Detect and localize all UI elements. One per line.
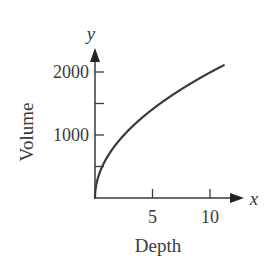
x-axis-symbol: x [249, 188, 259, 209]
y-tick-label: 1000 [53, 125, 89, 145]
x-ticks: 510 [148, 189, 219, 227]
y-axis-arrow-icon [90, 48, 100, 62]
data-curve [95, 65, 224, 198]
y-tick-label: 2000 [53, 62, 89, 82]
chart: 10002000 510 y x Depth Volume [0, 0, 266, 277]
y-axis-symbol: y [85, 23, 96, 44]
x-axis-arrow-icon [230, 193, 244, 203]
x-tick-label: 5 [148, 207, 157, 227]
y-axis-label: Volume [16, 103, 37, 162]
y-ticks: 10002000 [53, 62, 104, 167]
x-tick-label: 10 [201, 207, 219, 227]
x-axis-label: Depth [135, 235, 182, 256]
